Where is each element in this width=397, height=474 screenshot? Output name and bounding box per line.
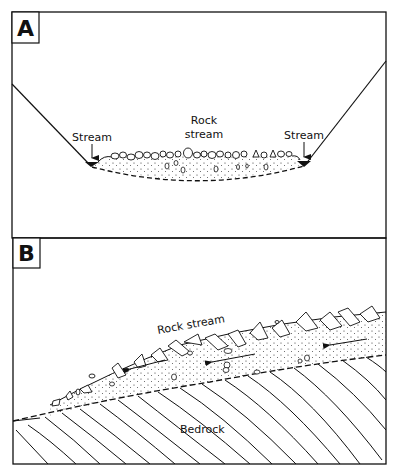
label-rock-stream-line2: stream <box>185 128 224 141</box>
left-valley-wall <box>12 84 89 164</box>
label-stream-left: Stream <box>72 131 112 144</box>
panel-a-letter: A <box>17 16 34 41</box>
rock-stream-diagram: A <box>0 0 397 474</box>
panel-b-letter: B <box>18 241 35 266</box>
label-bedrock: Bedrock <box>180 423 225 436</box>
panel-a: A <box>12 12 386 238</box>
right-valley-wall <box>305 61 386 165</box>
label-rock-stream-b: Rock stream <box>156 312 226 337</box>
label-rock-stream-line1: Rock <box>191 114 218 127</box>
panel-b: B <box>13 238 386 464</box>
label-stream-right: Stream <box>284 129 324 142</box>
